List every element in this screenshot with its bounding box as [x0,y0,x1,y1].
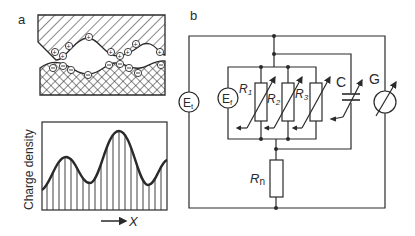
vertical-hatching [47,120,161,210]
plus-icon: + [156,48,163,55]
plus-icon: + [59,52,66,59]
svg-text:+: + [118,53,122,60]
svg-text:Rn: Rn [250,171,265,187]
chart-frame [42,122,167,210]
minus-icon [125,64,132,71]
load-resistor-rn: Rn [250,160,283,197]
minus-icon [157,61,164,68]
panel-a: a + + + + + + + + + [18,12,167,229]
minus-icon [134,69,141,76]
svg-text:+: + [87,34,91,41]
svg-text:+: + [61,53,65,60]
plus-icon: + [132,40,139,47]
svg-text:R1: R1 [239,82,252,97]
minus-icon [67,66,74,73]
svg-text:G: G [369,71,380,87]
source-ef: Ef [218,88,238,108]
panel-b: b Et Ef [179,8,396,210]
panel-a-label: a [18,12,26,27]
plus-icon: + [124,48,131,55]
galvanometer: G [369,71,396,116]
plus-icon: + [85,33,92,40]
svg-text:C: C [336,74,346,90]
panel-b-label: b [190,8,197,23]
svg-text:R2: R2 [267,92,281,107]
svg-text:+: + [109,49,113,56]
plus-icon: + [107,48,114,55]
outer-bottom-wire [189,112,385,208]
minus-icon [116,60,123,67]
parallel-bottom-bus [228,108,316,139]
charge-density-chart: Charge density X [22,120,167,229]
minus-icon [49,64,56,71]
minus-icon [59,62,66,69]
svg-text:R3: R3 [295,87,309,102]
variable-capacitor: C [331,74,362,121]
plus-icon: + [51,48,58,55]
charge-density-curve [42,131,167,190]
minus-icon [84,71,91,78]
minus-icon [105,61,112,68]
svg-text:+: + [53,49,57,56]
svg-text:+: + [158,49,162,56]
bottom-surface-block [40,61,165,95]
plus-icon: + [65,42,72,49]
x-axis-label: X [128,214,139,229]
resistor-r3: R3 [293,77,330,130]
svg-text:+: + [134,41,138,48]
figure: a + + + + + + + + + [0,0,415,236]
plus-icon: + [116,52,123,59]
y-axis-label: Charge density [22,129,36,210]
source-et: Et [179,92,199,112]
svg-text:+: + [126,49,130,56]
svg-text:+: + [67,43,71,50]
